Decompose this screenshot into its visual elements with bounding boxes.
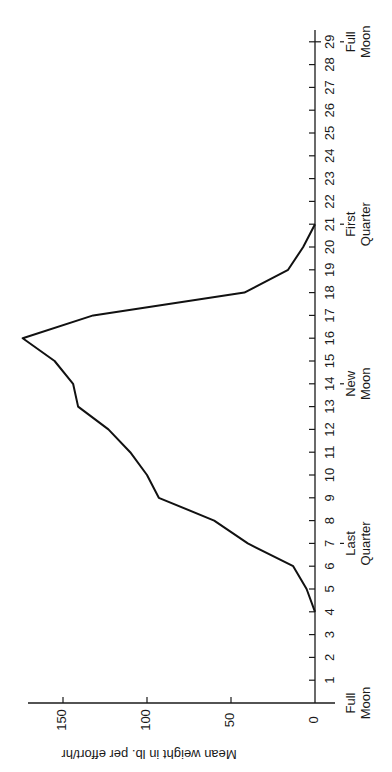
day-tick-label: 6: [322, 563, 337, 570]
day-tick-label: 12: [322, 422, 337, 436]
day-tick-label: 2: [322, 654, 337, 661]
phase-label: First: [343, 211, 358, 237]
day-tick-label: 7: [322, 540, 337, 547]
value-axis-title: Mean weight in lb. per effort/hr: [61, 747, 237, 762]
day-tick-label: 29: [322, 35, 337, 49]
day-tick-label: 17: [322, 308, 337, 322]
day-tick-label: 13: [322, 399, 337, 413]
phase-label: Last: [343, 531, 358, 556]
phase-label: Quarter: [358, 521, 373, 566]
day-tick-label: 20: [322, 240, 337, 254]
day-tick-label: 18: [322, 285, 337, 299]
phase-label: Moon: [358, 26, 373, 59]
day-tick-label: 11: [322, 445, 337, 459]
value-axis-ticks: 050100150: [54, 697, 321, 731]
axes: [28, 30, 335, 703]
day-tick-label: 10: [322, 468, 337, 482]
phase-label: New: [343, 370, 358, 397]
phase-label: Quarter: [358, 201, 373, 246]
value-tick-label: 50: [222, 713, 237, 727]
day-tick-label: 19: [322, 263, 337, 277]
day-tick-label: 14: [322, 377, 337, 391]
day-tick-label: 16: [322, 331, 337, 345]
day-tick-label: 24: [322, 149, 337, 163]
day-tick-label: 23: [322, 171, 337, 185]
day-tick-label: 5: [322, 585, 337, 592]
day-tick-label: 26: [322, 103, 337, 117]
value-tick-label: 100: [138, 709, 153, 731]
day-tick-label: 1: [322, 677, 337, 684]
phase-label: Moon: [358, 368, 373, 401]
day-tick-label: 28: [322, 57, 337, 71]
day-tick-label: 15: [322, 354, 337, 368]
day-tick-label: 27: [322, 80, 337, 94]
value-tick-label: 150: [54, 709, 69, 731]
day-tick-label: 25: [322, 126, 337, 140]
phase-label: Full: [343, 31, 358, 52]
phase-label: Moon: [358, 687, 373, 720]
day-tick-label: 3: [322, 631, 337, 638]
day-tick-label: 22: [322, 194, 337, 208]
mean-weight-series-line: [23, 224, 315, 612]
day-tick-label: 21: [322, 217, 337, 231]
phase-label: Full: [343, 692, 358, 713]
day-tick-label: 4: [322, 608, 337, 615]
moon-phase-annotations: FullMoonLastQuarterNewMoonFirstQuarterFu…: [340, 26, 373, 720]
value-tick-label: 0: [306, 716, 321, 723]
day-tick-label: 8: [322, 517, 337, 524]
moon-phase-line-chart: 1234567891011121314151617181920212223242…: [0, 0, 392, 772]
day-axis-ticks: 1234567891011121314151617181920212223242…: [309, 35, 337, 684]
day-tick-label: 9: [322, 494, 337, 501]
